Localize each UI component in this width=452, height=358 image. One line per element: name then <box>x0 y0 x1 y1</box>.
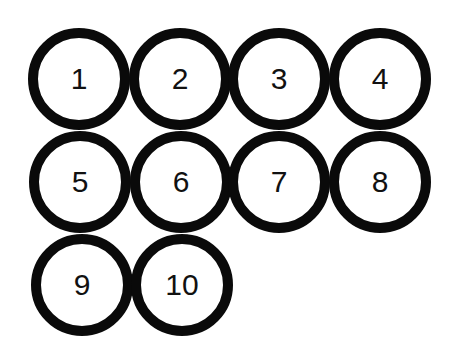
circle-7: 7 <box>228 131 330 233</box>
circle-10: 10 <box>131 234 233 336</box>
circle-label: 7 <box>271 167 288 197</box>
circle-label: 9 <box>74 270 91 300</box>
circle-9: 9 <box>31 234 133 336</box>
circle-label: 6 <box>173 167 190 197</box>
circle-label: 5 <box>72 167 89 197</box>
circle-label: 10 <box>165 270 198 300</box>
circle-8: 8 <box>329 131 431 233</box>
circle-2: 2 <box>129 28 231 130</box>
circle-5: 5 <box>29 131 131 233</box>
circle-4: 4 <box>329 28 431 130</box>
circle-3: 3 <box>228 28 330 130</box>
circle-1: 1 <box>28 28 130 130</box>
circle-label: 2 <box>172 64 189 94</box>
circle-label: 3 <box>271 64 288 94</box>
circle-6: 6 <box>130 131 232 233</box>
circle-label: 1 <box>71 64 88 94</box>
circle-label: 8 <box>372 167 389 197</box>
circle-label: 4 <box>372 64 389 94</box>
